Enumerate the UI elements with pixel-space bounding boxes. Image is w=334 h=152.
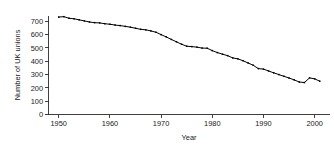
y-tick-label: 100 bbox=[31, 97, 43, 106]
data-point-marker bbox=[84, 20, 86, 22]
data-point-marker bbox=[232, 57, 234, 59]
data-point-marker bbox=[268, 70, 270, 72]
data-point-marker bbox=[94, 22, 96, 24]
data-point-marker bbox=[171, 39, 173, 41]
x-axis-ticks: 195019601970198019902000 bbox=[51, 115, 323, 129]
x-tick-label: 2000 bbox=[306, 119, 322, 128]
data-point-marker bbox=[165, 36, 167, 38]
data-point-marker bbox=[319, 80, 321, 82]
data-point-marker bbox=[201, 47, 203, 49]
data-point-marker bbox=[283, 76, 285, 78]
x-axis-title: Year bbox=[182, 133, 197, 142]
x-tick-label: 1970 bbox=[153, 119, 169, 128]
data-point-marker bbox=[258, 68, 260, 70]
data-point-marker bbox=[222, 53, 224, 55]
data-point-marker bbox=[160, 34, 162, 36]
data-point-marker bbox=[191, 46, 193, 48]
data-point-marker bbox=[247, 62, 249, 64]
data-point-marker bbox=[299, 81, 301, 83]
data-point-marker bbox=[73, 18, 75, 20]
unions-series-line bbox=[59, 17, 320, 83]
data-point-marker bbox=[89, 21, 91, 23]
data-point-marker bbox=[278, 74, 280, 76]
data-point-marker bbox=[273, 72, 275, 74]
y-tick-label: 500 bbox=[31, 44, 43, 53]
data-point-marker bbox=[99, 22, 101, 24]
data-point-marker bbox=[263, 68, 265, 70]
x-tick-label: 1950 bbox=[51, 119, 67, 128]
data-point-marker bbox=[130, 26, 132, 28]
data-point-marker bbox=[181, 43, 183, 45]
data-point-marker bbox=[78, 19, 80, 21]
x-tick-label: 1990 bbox=[255, 119, 271, 128]
y-tick-label: 300 bbox=[31, 70, 43, 79]
data-point-marker bbox=[212, 50, 214, 52]
y-axis-ticks: 0100200300400500600700 bbox=[31, 17, 49, 119]
data-point-marker bbox=[227, 55, 229, 57]
unions-series-markers bbox=[58, 16, 321, 83]
data-point-marker bbox=[63, 16, 65, 18]
data-point-marker bbox=[119, 25, 121, 27]
data-point-marker bbox=[206, 47, 208, 49]
data-point-marker bbox=[196, 46, 198, 48]
line-chart-canvas: 0100200300400500600700 19501960197019801… bbox=[0, 0, 334, 152]
data-point-marker bbox=[288, 77, 290, 79]
data-point-marker bbox=[304, 82, 306, 84]
data-point-marker bbox=[309, 77, 311, 79]
y-tick-label: 200 bbox=[31, 84, 43, 93]
data-point-marker bbox=[252, 65, 254, 67]
data-point-marker bbox=[176, 41, 178, 43]
data-point-marker bbox=[140, 29, 142, 31]
data-point-marker bbox=[68, 18, 70, 20]
data-point-marker bbox=[150, 30, 152, 32]
data-point-marker bbox=[109, 24, 111, 26]
data-point-marker bbox=[293, 79, 295, 81]
chart-figure: 0100200300400500600700 19501960197019801… bbox=[0, 0, 334, 152]
y-tick-label: 400 bbox=[31, 57, 43, 66]
data-point-marker bbox=[155, 31, 157, 32]
data-point-marker bbox=[237, 58, 239, 60]
data-point-marker bbox=[125, 26, 127, 28]
data-point-marker bbox=[242, 60, 244, 62]
data-point-marker bbox=[104, 23, 106, 25]
y-tick-label: 600 bbox=[31, 30, 43, 39]
data-point-marker bbox=[186, 45, 188, 47]
x-tick-label: 1980 bbox=[204, 119, 220, 128]
data-point-marker bbox=[135, 28, 137, 30]
y-tick-label: 700 bbox=[31, 17, 43, 26]
y-tick-label: 0 bbox=[39, 110, 43, 119]
data-point-marker bbox=[217, 52, 219, 54]
data-point-marker bbox=[314, 78, 316, 80]
data-point-marker bbox=[114, 24, 116, 26]
y-axis-title: Number of UK unions bbox=[13, 29, 22, 100]
data-point-marker bbox=[58, 16, 60, 18]
x-tick-label: 1960 bbox=[102, 119, 118, 128]
data-point-marker bbox=[145, 29, 147, 31]
